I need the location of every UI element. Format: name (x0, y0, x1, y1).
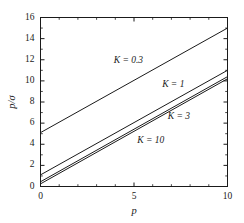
x-tick-label: 10 (223, 192, 233, 202)
y-tick-label: 16 (0, 13, 35, 23)
series-line (41, 28, 228, 133)
y-tick-label: 2 (0, 161, 35, 171)
x-tick-label: 5 (132, 192, 137, 202)
y-tick-label: 12 (0, 55, 35, 65)
data-series-lines (41, 28, 228, 184)
series-label: K = 3 (168, 112, 190, 122)
series-label: K = 1 (162, 80, 184, 90)
y-tick-label: 0 (0, 182, 35, 192)
series-label: K = 0.3 (114, 56, 143, 66)
x-tick-label: 0 (38, 192, 43, 202)
x-axis-title: p (131, 206, 136, 217)
series-label: K = 10 (137, 136, 164, 146)
y-tick-label: 14 (0, 34, 35, 44)
y-tick-label: 4 (0, 140, 35, 150)
plot-canvas (0, 0, 244, 223)
series-line (41, 77, 228, 182)
y-tick-label: 6 (0, 118, 35, 128)
axes-frame (41, 18, 228, 187)
series-line (41, 79, 228, 184)
figure-container: 0246810121416 0510 K = 0.3K = 1K = 3K = … (0, 0, 244, 223)
axis-ticks (41, 18, 228, 187)
series-line (41, 70, 228, 175)
y-axis-title: p/σ (7, 95, 18, 108)
y-tick-label: 10 (0, 76, 35, 86)
